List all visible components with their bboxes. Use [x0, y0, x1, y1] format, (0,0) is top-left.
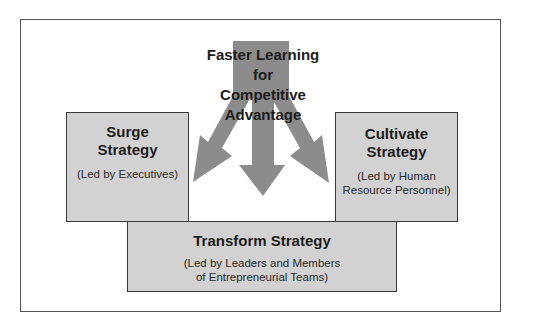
center-line-3: Competitive	[190, 85, 336, 105]
center-line-2: for	[190, 65, 336, 85]
center-line-4: Advantage	[190, 105, 336, 125]
cultivate-subtitle-line-2: Resource Personnel)	[336, 183, 457, 197]
cultivate-strategy-box: Cultivate Strategy (Led by Human Resourc…	[335, 112, 458, 222]
surge-strategy-box: Surge Strategy (Led by Executives)	[66, 112, 189, 222]
cultivate-subtitle-line-1: (Led by Human	[336, 169, 457, 183]
transform-title: Transform Strategy	[128, 232, 396, 250]
surge-subtitle: (Led by Executives)	[67, 167, 188, 181]
transform-subtitle-line-2: of Entrepreneurial Teams)	[128, 270, 396, 284]
cultivate-title-line-1: Cultivate	[336, 125, 457, 143]
center-line-1: Faster Learning	[190, 45, 336, 65]
surge-title-line-1: Surge	[67, 123, 188, 141]
surge-title-line-2: Strategy	[67, 141, 188, 159]
center-goal-title: Faster Learning for Competitive Advantag…	[190, 45, 336, 125]
transform-subtitle-line-1: (Led by Leaders and Members	[128, 256, 396, 270]
transform-strategy-box: Transform Strategy (Led by Leaders and M…	[127, 221, 397, 292]
cultivate-title-line-2: Strategy	[336, 143, 457, 161]
